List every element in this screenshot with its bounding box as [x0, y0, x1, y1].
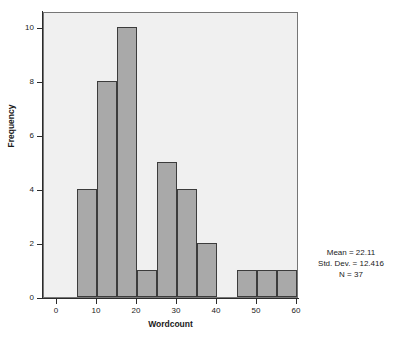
y-axis-tick-mark [37, 28, 42, 29]
plot-area [43, 12, 298, 298]
y-axis-tick-mark [37, 244, 42, 245]
x-axis-tick-mark [256, 299, 257, 304]
histogram-bar [277, 270, 297, 297]
histogram-bar [117, 27, 137, 297]
x-axis-tick-mark [136, 299, 137, 304]
x-axis-tick-label: 10 [81, 306, 111, 315]
y-axis-tick-label: 10 [25, 24, 34, 32]
x-axis-line [42, 298, 299, 299]
y-axis-tick-mark [37, 82, 42, 83]
x-axis-tick-mark [216, 299, 217, 304]
y-axis-tick-mark [37, 136, 42, 137]
stat-std-dev: Std. Dev. = 12.416 [304, 258, 398, 269]
histogram-bar [237, 270, 257, 297]
bars-layer [44, 13, 297, 297]
stat-mean: Mean = 22.11 [304, 247, 398, 258]
x-axis-tick-label: 60 [281, 306, 311, 315]
x-axis-tick-mark [296, 299, 297, 304]
stat-n: N = 37 [304, 269, 398, 280]
y-axis-title: Frequency [6, 86, 16, 166]
x-axis-tick-label: 40 [201, 306, 231, 315]
y-axis-tick-label: 8 [30, 78, 34, 86]
x-axis-tick-label: 0 [41, 306, 71, 315]
y-axis-tick-label: 6 [30, 132, 34, 140]
histogram-bar [157, 162, 177, 297]
x-axis-tick-label: 20 [121, 306, 151, 315]
y-axis-tick-label: 0 [30, 294, 34, 302]
statistics-annotation: Mean = 22.11 Std. Dev. = 12.416 N = 37 [304, 247, 398, 280]
y-axis-tick-label: 2 [30, 240, 34, 248]
histogram-bar [77, 189, 97, 297]
histogram-bar [97, 81, 117, 297]
y-axis-tick-label: 4 [30, 186, 34, 194]
histogram-bar [197, 243, 217, 297]
histogram-bar [137, 270, 157, 297]
histogram-bar [257, 270, 277, 297]
x-axis-tick-mark [176, 299, 177, 304]
x-axis-tick-label: 50 [241, 306, 271, 315]
x-axis-tick-label: 30 [161, 306, 191, 315]
x-axis-tick-mark [96, 299, 97, 304]
y-axis-tick-mark [37, 190, 42, 191]
histogram-figure: 0246810 Frequency 0102030405060 Wordcoun… [0, 0, 406, 340]
x-axis-tick-mark [56, 299, 57, 304]
x-axis-title: Wordcount [43, 319, 298, 329]
y-axis-line [42, 11, 43, 299]
histogram-bar [177, 189, 197, 297]
